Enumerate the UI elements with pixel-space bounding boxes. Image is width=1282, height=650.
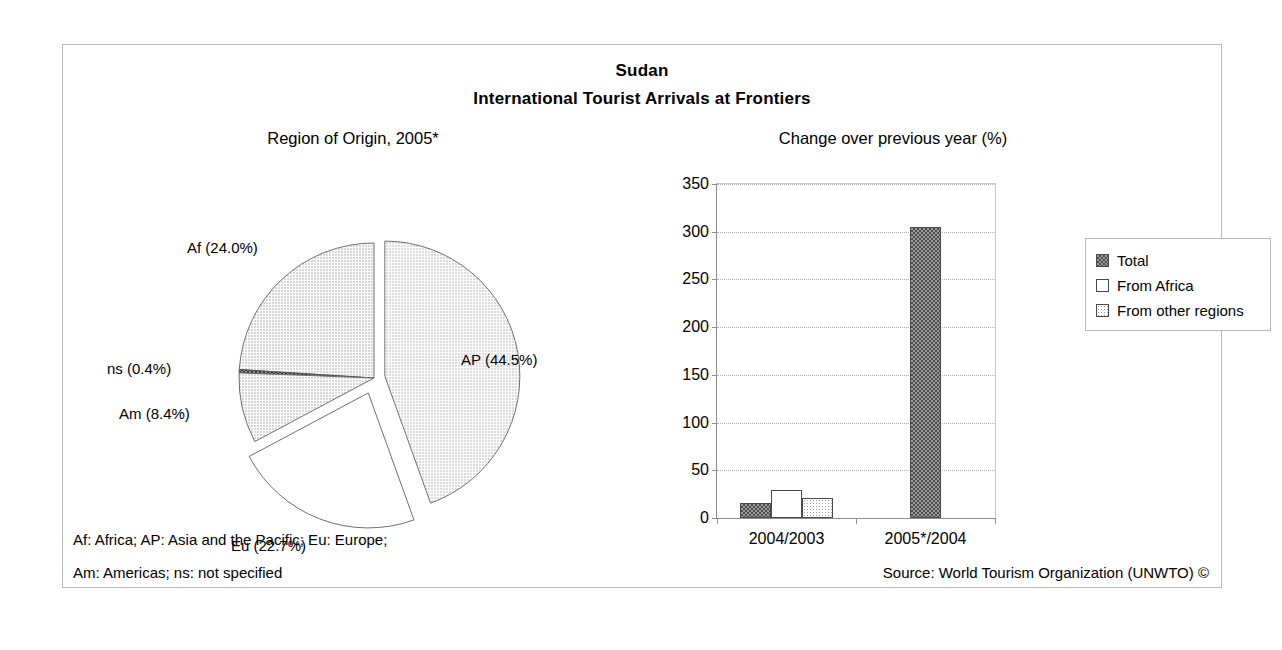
chart-frame: Sudan International Tourist Arrivals at …: [62, 44, 1222, 588]
legend-item[interactable]: From other regions: [1096, 298, 1260, 323]
footnote-line-1: Af: Africa; AP: Asia and the Pacific; Eu…: [73, 531, 387, 548]
gridline: [717, 232, 995, 233]
page-title: Sudan: [63, 61, 1221, 81]
chart-page: Sudan International Tourist Arrivals at …: [0, 0, 1282, 650]
bar-from-other-regions: [802, 498, 833, 518]
y-tick-label: 350: [682, 176, 709, 192]
gridline: [717, 279, 995, 280]
legend-item[interactable]: Total: [1096, 248, 1260, 273]
y-tick-label: 250: [682, 271, 709, 287]
legend-label: From other regions: [1117, 303, 1244, 318]
pie-slice-af: [239, 243, 374, 378]
pie-chart: AP (44.5%) Af (24.0%) ns (0.4%) Am (8.4%…: [71, 155, 631, 545]
pie-label-ap: AP (44.5%): [461, 351, 537, 368]
y-tick-label: 0: [700, 510, 709, 526]
x-tick-mark: [995, 518, 996, 524]
legend-swatch-icon: [1096, 304, 1109, 317]
y-tick-mark: [712, 232, 717, 233]
y-tick-label: 300: [682, 224, 709, 240]
pie-label-am: Am (8.4%): [119, 405, 190, 422]
bar-from-africa: [771, 490, 802, 518]
legend-swatch-icon: [1096, 254, 1109, 267]
y-tick-label: 100: [682, 415, 709, 431]
gridline: [717, 470, 995, 471]
y-tick-mark: [712, 184, 717, 185]
legend: TotalFrom AfricaFrom other regions: [1085, 238, 1271, 331]
x-tick-mark: [856, 518, 857, 524]
legend-label: From Africa: [1117, 278, 1194, 293]
source-note: Source: World Tourism Organization (UNWT…: [883, 564, 1209, 581]
legend-item[interactable]: From Africa: [1096, 273, 1260, 298]
y-tick-label: 50: [691, 462, 709, 478]
y-tick-mark: [712, 423, 717, 424]
y-tick-mark: [712, 327, 717, 328]
y-tick-mark: [712, 375, 717, 376]
gridline: [717, 375, 995, 376]
y-tick-mark: [712, 470, 717, 471]
pie-label-ns: ns (0.4%): [107, 360, 171, 377]
page-subtitle: International Tourist Arrivals at Fronti…: [63, 89, 1221, 109]
bar-total: [910, 227, 941, 518]
y-tick-label: 200: [682, 319, 709, 335]
gridline: [717, 327, 995, 328]
y-tick-mark: [712, 279, 717, 280]
y-tick-label: 150: [682, 367, 709, 383]
pie-slice-ap-main: [385, 241, 520, 503]
gridline: [717, 184, 995, 185]
bar-total: [740, 503, 771, 518]
x-category-label: 2005*/2004: [885, 530, 967, 548]
legend-swatch-icon: [1096, 279, 1109, 292]
bar-chart: 050100150200250300350 2004/20032005*/200…: [623, 155, 1223, 555]
pie-svg: [71, 155, 631, 545]
bar-chart-title: Change over previous year (%): [663, 129, 1123, 148]
gridline: [717, 423, 995, 424]
footnote-line-2: Am: Americas; ns: not specified: [73, 564, 282, 581]
bar-plot-area: 050100150200250300350 2004/20032005*/200…: [716, 183, 996, 519]
pie-chart-title: Region of Origin, 2005*: [153, 129, 553, 148]
pie-label-af: Af (24.0%): [187, 239, 258, 256]
x-tick-mark: [717, 518, 718, 524]
x-category-label: 2004/2003: [749, 530, 825, 548]
legend-label: Total: [1117, 253, 1149, 268]
